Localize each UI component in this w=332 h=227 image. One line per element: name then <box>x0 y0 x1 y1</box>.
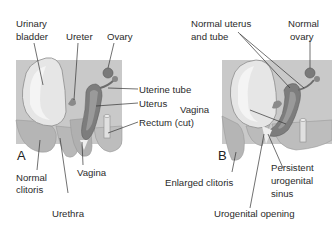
label-normal-clitoris-line1: Normal <box>16 172 47 183</box>
label-normal-uterus-line2: and tube <box>191 31 228 42</box>
label-normal-ovary-line1: Normal <box>288 18 319 29</box>
label-urinary-bladder-line2: bladder <box>16 31 48 42</box>
label-persistent-sinus-line1: Persistent <box>271 162 314 173</box>
panel-b-rectum <box>300 120 306 142</box>
panel-b-ovary <box>305 68 315 78</box>
label-urinary-bladder-line1: Urinary <box>16 18 47 29</box>
panel-a-rectum <box>104 116 110 138</box>
panel-a-letter: A <box>17 148 26 163</box>
label-normal-ovary-line2: ovary <box>290 31 313 42</box>
label-persistent-sinus-line3: sinus <box>271 188 293 199</box>
label-urethra: Urethra <box>52 208 84 219</box>
label-urogenital-opening: Urogenital opening <box>214 208 295 219</box>
label-persistent-sinus-line2: urogenital <box>271 175 313 186</box>
label-uterus: Uterus <box>139 98 167 109</box>
anatomy-figure: Urinary bladder Ureter Ovary Uterine tub… <box>0 0 332 227</box>
label-ovary: Ovary <box>107 31 133 42</box>
label-uterine-tube: Uterine tube <box>139 84 191 95</box>
panel-b-letter: B <box>218 148 227 163</box>
panel-a-ovary <box>103 68 113 78</box>
label-rectum-cut: Rectum (cut) <box>139 117 194 128</box>
label-vagina-a: Vagina <box>77 167 106 178</box>
label-normal-uterus-line1: Normal uterus <box>191 18 251 29</box>
label-normal-clitoris-line2: clitoris <box>16 184 43 195</box>
label-enlarged-clitoris: Enlarged clitoris <box>165 177 233 188</box>
label-vagina-b: Vagina <box>180 104 209 115</box>
panel-a-fimbriae <box>112 76 118 82</box>
label-ureter: Ureter <box>66 31 93 42</box>
